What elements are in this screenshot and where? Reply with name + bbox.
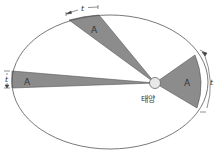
right-time-marker <box>200 50 210 112</box>
left-sector <box>12 71 155 88</box>
sun <box>150 78 161 89</box>
right-area-label: A <box>184 78 191 88</box>
kepler-diagram: 태양 A A A t t t <box>0 0 220 163</box>
sun-label: 태양 <box>141 95 156 104</box>
top-area-label: A <box>91 25 98 35</box>
right-sector <box>155 55 201 108</box>
top-sector <box>69 15 155 83</box>
left-area-label: A <box>24 77 31 87</box>
top-time-label: t <box>81 4 85 13</box>
right-time-label: t <box>210 78 214 87</box>
left-time-label: t <box>5 75 9 84</box>
